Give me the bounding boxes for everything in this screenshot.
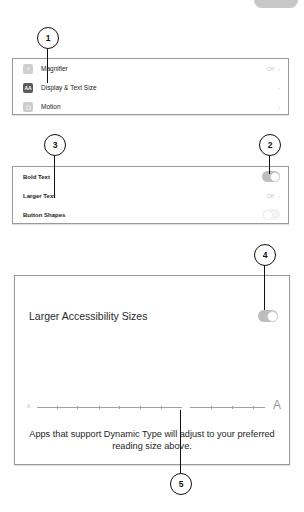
callout-5-leader: [180, 410, 181, 474]
list-item-label: Display & Text Size: [41, 84, 97, 91]
list-item-value: Off: [267, 193, 274, 199]
callout-5: 5: [170, 473, 192, 495]
small-text-size-icon: A: [27, 403, 30, 409]
callout-3-leader: [54, 156, 55, 198]
slider-tick: [140, 406, 141, 409]
display-text-size-icon: AA: [23, 83, 33, 93]
larger-text-panel: Larger Accessibility Sizes A A Apps that…: [14, 275, 290, 465]
callout-1-leader: [47, 49, 48, 83]
toggle-knob: [270, 172, 280, 182]
list-item-button-shapes: Button Shapes: [13, 205, 288, 224]
list-item-display-text-size[interactable]: AA Display & Text Size ›: [13, 78, 288, 97]
slider-tick: [161, 406, 162, 409]
slider-tick: [253, 406, 254, 409]
callout-2: 2: [259, 134, 281, 156]
bold-text-toggle[interactable]: [262, 171, 280, 182]
dynamic-type-description: Apps that support Dynamic Type will adju…: [21, 428, 283, 452]
callout-4: 4: [254, 244, 276, 266]
callout-2-leader: [269, 156, 270, 174]
accessibility-vision-list: ⌕ Magnifier Off › AA Display & Text Size…: [12, 58, 289, 115]
chevron-right-icon: ›: [278, 104, 280, 110]
list-item-label: Motion: [41, 103, 61, 110]
list-item-label: Larger Text: [23, 193, 55, 199]
slider-tick: [119, 406, 120, 409]
list-item-label: Button Shapes: [23, 212, 65, 218]
chevron-right-icon: ›: [278, 66, 280, 72]
slider-tick: [211, 406, 212, 409]
toggle-knob: [267, 311, 278, 322]
list-item-magnifier[interactable]: ⌕ Magnifier Off ›: [13, 59, 288, 78]
larger-accessibility-sizes-toggle[interactable]: [258, 310, 278, 322]
magnifier-icon: ⌕: [23, 64, 33, 74]
slider-tick: [99, 406, 100, 409]
callout-3: 3: [44, 134, 66, 156]
list-item-motion[interactable]: ▢ Motion ›: [13, 97, 288, 116]
toggle-knob: [263, 210, 273, 220]
motion-icon: ▢: [23, 102, 33, 112]
larger-accessibility-sizes-label: Larger Accessibility Sizes: [29, 310, 147, 322]
list-item-label: Bold Text: [23, 174, 50, 180]
slider-tick: [232, 406, 233, 409]
text-size-slider[interactable]: A A: [27, 400, 281, 414]
callout-1: 1: [37, 27, 59, 49]
list-item-value: Off: [267, 66, 274, 72]
large-text-size-icon: A: [273, 398, 281, 412]
chevron-right-icon: ›: [278, 193, 280, 199]
list-item-label: Magnifier: [41, 65, 68, 72]
button-shapes-toggle[interactable]: [262, 209, 280, 220]
top-pill-decoration: [254, 0, 298, 8]
slider-tick: [77, 406, 78, 409]
callout-4-leader: [264, 265, 265, 310]
slider-tick: [57, 406, 58, 409]
chevron-right-icon: ›: [278, 85, 280, 91]
